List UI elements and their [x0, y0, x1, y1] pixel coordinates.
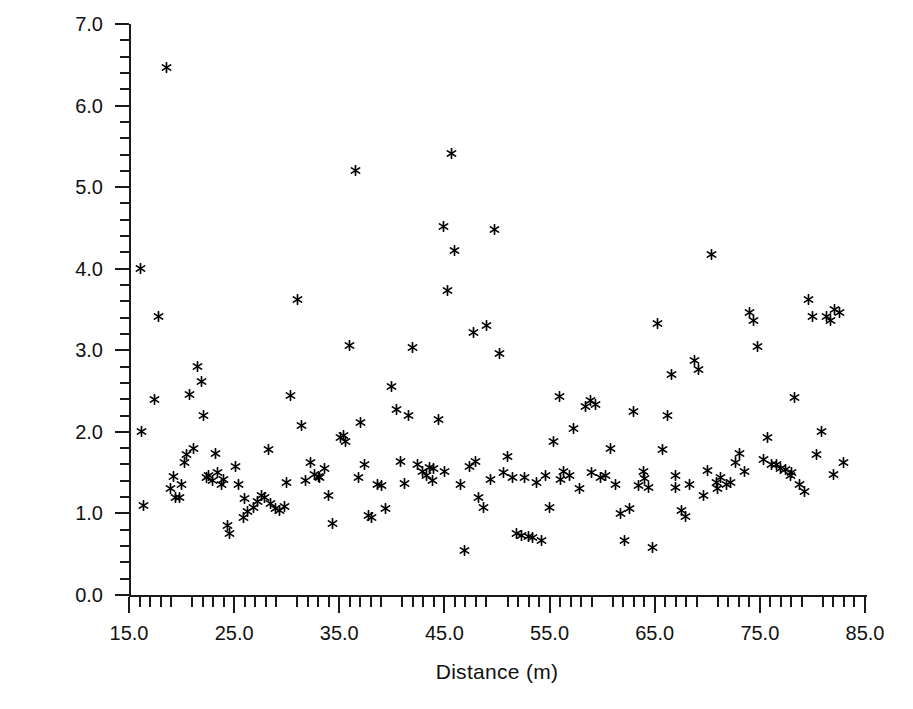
x-tick-label: 75.0 [715, 623, 805, 643]
data-point [446, 148, 457, 159]
data-point [473, 492, 484, 503]
y-minor-tick [120, 561, 129, 563]
y-minor-tick [120, 121, 129, 123]
data-point [715, 472, 726, 483]
data-point [196, 376, 207, 387]
y-minor-tick [120, 382, 129, 384]
data-point [489, 224, 500, 235]
data-point [403, 410, 414, 421]
data-point [516, 530, 527, 541]
data-point [807, 311, 818, 322]
x-minor-tick [328, 597, 330, 607]
data-point [744, 307, 755, 318]
data-point [309, 469, 320, 480]
data-point [366, 512, 377, 523]
data-point [305, 457, 316, 468]
x-minor-tick [675, 597, 677, 607]
data-point [834, 307, 845, 318]
x-minor-tick [853, 597, 855, 607]
y-minor-tick [120, 300, 129, 302]
data-point [829, 304, 840, 315]
data-point [239, 493, 250, 504]
data-point [296, 420, 307, 431]
data-point [610, 479, 621, 490]
x-minor-tick [727, 597, 729, 607]
y-tick-label: 4.0 [45, 259, 103, 279]
data-point [494, 348, 505, 359]
y-major-tick [115, 186, 129, 188]
x-minor-tick [559, 597, 561, 607]
data-point [580, 401, 591, 412]
y-minor-tick [120, 398, 129, 400]
data-point [259, 492, 270, 503]
x-minor-tick [160, 597, 162, 607]
x-tick-label: 35.0 [294, 623, 384, 643]
x-minor-tick [633, 597, 635, 607]
x-tick-label: 45.0 [399, 623, 489, 643]
data-point [684, 479, 695, 490]
data-point [639, 473, 650, 484]
x-minor-tick [443, 597, 445, 607]
x-minor-tick [717, 597, 719, 607]
y-tick-label: 2.0 [45, 422, 103, 442]
data-point [470, 456, 481, 467]
data-point [421, 470, 432, 481]
data-point [527, 532, 538, 543]
data-point [523, 531, 534, 542]
data-point [643, 482, 654, 493]
x-minor-tick [422, 597, 424, 607]
y-minor-tick [120, 154, 129, 156]
y-minor-tick [120, 72, 129, 74]
data-point [666, 369, 677, 380]
data-point [135, 263, 146, 274]
data-point [459, 545, 470, 556]
data-point [442, 285, 453, 296]
data-point [624, 503, 635, 514]
data-point [507, 472, 518, 483]
x-minor-tick [570, 597, 572, 607]
y-minor-tick [120, 415, 129, 417]
data-point [338, 430, 349, 441]
x-minor-tick [549, 597, 551, 607]
y-minor-tick [120, 333, 129, 335]
x-tick-label: 15.0 [84, 623, 174, 643]
data-point [600, 470, 611, 481]
data-point [252, 496, 263, 507]
data-point [376, 480, 387, 491]
x-minor-tick [622, 597, 624, 607]
data-point [438, 221, 449, 232]
x-minor-tick [338, 597, 340, 607]
y-major-tick [115, 349, 129, 351]
data-point [138, 500, 149, 511]
y-major-tick [115, 594, 129, 596]
data-point [540, 470, 551, 481]
data-point [168, 471, 179, 482]
data-point [224, 528, 235, 539]
y-minor-tick [120, 447, 129, 449]
data-point [136, 426, 147, 437]
data-point [201, 472, 212, 483]
y-major-tick [115, 23, 129, 25]
data-point [771, 459, 782, 470]
x-minor-tick [843, 597, 845, 607]
data-point [203, 470, 214, 481]
x-minor-tick [864, 597, 866, 607]
data-point [762, 432, 773, 443]
y-minor-tick [120, 137, 129, 139]
data-point [786, 467, 797, 478]
data-point [615, 508, 626, 519]
data-point [803, 294, 814, 305]
data-point [586, 467, 597, 478]
data-point [313, 471, 324, 482]
data-point [188, 443, 199, 454]
data-point [799, 486, 810, 497]
data-point [433, 414, 444, 425]
data-point [689, 355, 700, 366]
data-point [758, 454, 769, 465]
data-point [218, 474, 229, 485]
x-minor-tick [149, 597, 151, 607]
data-point [711, 477, 722, 488]
data-point [657, 444, 668, 455]
y-minor-tick [120, 366, 129, 368]
data-point [574, 483, 585, 494]
